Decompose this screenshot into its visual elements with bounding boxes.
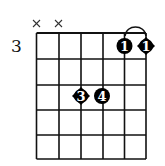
finger-dot-string3-fret3: 4	[94, 88, 110, 104]
svg-text:3: 3	[76, 89, 85, 104]
svg-text:1: 1	[120, 39, 129, 54]
svg-text:4: 4	[97, 89, 106, 104]
finger-diamond-string4-fret3: 3	[72, 87, 90, 105]
finger-dot-string2-fret1: 1	[117, 38, 133, 54]
barre-arc-icon	[125, 27, 146, 36]
svg-text:1: 1	[141, 39, 150, 54]
muted-string-6-icon	[33, 20, 40, 27]
chord-diagram: 1 1 3 4	[0, 0, 165, 166]
finger-diamond-string1-fret1: 1	[137, 37, 155, 55]
muted-markers	[33, 20, 62, 27]
muted-string-5-icon	[55, 20, 62, 27]
